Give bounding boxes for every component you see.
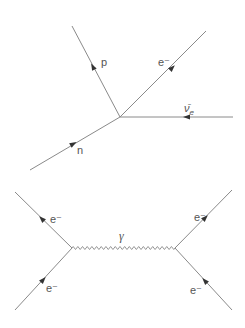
electron-scattering-diagram: e⁻ e⁻ e⁻ e⁻ γ xyxy=(15,190,232,310)
beta-decay-diagram: p e⁻ ν̄e n xyxy=(30,26,233,170)
neutron-label: n xyxy=(77,144,83,156)
antineutrino-label: ν̄e xyxy=(184,102,195,117)
electron-out-left-label: e⁻ xyxy=(50,213,62,225)
photon-label: γ xyxy=(119,229,124,243)
electron-label: e⁻ xyxy=(158,56,170,68)
electron-in-right-label: e⁻ xyxy=(190,284,202,296)
electron-line xyxy=(120,31,206,117)
proton-line xyxy=(72,26,120,117)
electron-out-right-label: e⁻ xyxy=(194,211,206,223)
electron-in-left-label: e⁻ xyxy=(46,282,58,294)
proton-label: p xyxy=(101,56,107,68)
feynman-diagrams: p e⁻ ν̄e n e⁻ e⁻ e⁻ e⁻ γ xyxy=(0,0,245,328)
photon-propagator xyxy=(72,247,175,250)
